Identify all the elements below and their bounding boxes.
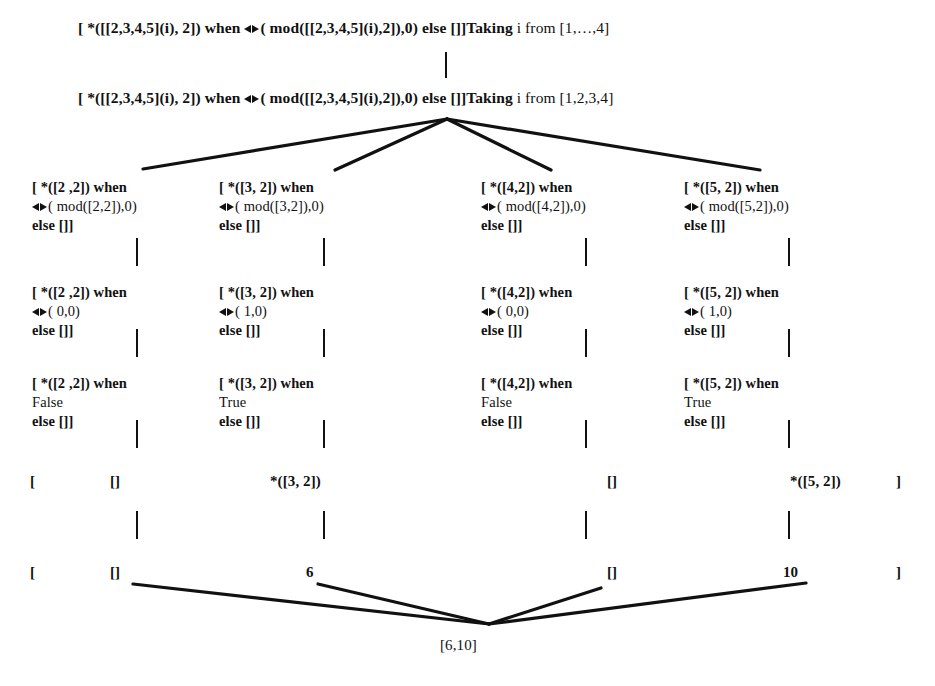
- connector-col1-cmp-to-bool: [136, 329, 138, 357]
- select-item-3: []: [607, 472, 617, 492]
- node-mod-col2: [ *([3, 2]) when( mod([3,2]),0)else []]: [219, 178, 324, 235]
- root-top-pre: [ *([[2,3,4,5](i), 2]) when: [78, 19, 244, 36]
- mod-col1-line1: [ *([2 ,2]) when: [32, 179, 127, 195]
- connector-col2-mod-to-cmp: [323, 238, 325, 266]
- value-item-1: []: [110, 563, 120, 583]
- cmp-col2-line2: ( 1,0): [235, 303, 267, 319]
- node-mod-col4: [ *([5, 2]) when( mod([5,2]),0)else []]: [684, 178, 789, 235]
- edge-root-to-branch-1: [143, 119, 447, 169]
- edge-root-to-branch-4: [447, 119, 760, 170]
- edge-root-to-branch-3: [447, 119, 551, 170]
- connector-col3-select-to-value: [585, 511, 587, 539]
- connector-col3-bool-to-select: [585, 420, 587, 448]
- bool-col1-line2: False: [32, 394, 63, 410]
- mod-col3-line2: ( mod([4,2]),0): [497, 198, 586, 214]
- root-expanded-post: ( mod([[2,3,4,5](i),2]),0) else []]: [260, 89, 466, 106]
- connector-col4-mod-to-cmp: [788, 238, 790, 266]
- not-equal-diamond-icon: [481, 308, 496, 317]
- bool-col2-line1: [ *([3, 2]) when: [219, 375, 314, 391]
- root-top-tail: i from [1,…,4]: [513, 19, 610, 36]
- connector-col2-select-to-value: [323, 511, 325, 539]
- cmp-col3-line3: else []]: [481, 322, 522, 338]
- mod-col2-line3: else []]: [219, 217, 260, 233]
- cmp-col3-line2: ( 0,0): [497, 303, 529, 319]
- cmp-col4-line2: ( 1,0): [700, 303, 732, 319]
- mod-col1-line3: else []]: [32, 217, 73, 233]
- root-expanded-tail-bold: Taking: [466, 89, 513, 106]
- node-cmp-col2: [ *([3, 2]) when( 1,0)else []]: [219, 283, 314, 340]
- bool-col3-line2: False: [481, 394, 512, 410]
- connector-col4-select-to-value: [788, 511, 790, 539]
- bool-col2-line3: else []]: [219, 413, 260, 429]
- bool-col3-line3: else []]: [481, 413, 522, 429]
- cmp-col2-line1: [ *([3, 2]) when: [219, 284, 314, 300]
- bool-col4-line1: [ *([5, 2]) when: [684, 375, 779, 391]
- node-root-top: [ *([[2,3,4,5](i), 2]) when ( mod([[2,3,…: [78, 18, 609, 38]
- node-bool-col3: [ *([4,2]) whenFalseelse []]: [481, 374, 572, 431]
- not-equal-diamond-icon: [219, 308, 234, 317]
- bool-col4-line2: True: [684, 394, 711, 410]
- mod-col4-line2: ( mod([5,2]),0): [700, 198, 789, 214]
- connector-col3-mod-to-cmp: [585, 238, 587, 266]
- select-close-bracket: ]: [896, 472, 901, 492]
- bool-col3-line1: [ *([4,2]) when: [481, 375, 572, 391]
- root-top-tail-bold: Taking: [466, 19, 513, 36]
- connector-col3-cmp-to-bool: [585, 329, 587, 357]
- not-equal-diamond-icon: [684, 308, 699, 317]
- node-bool-col4: [ *([5, 2]) whenTrueelse []]: [684, 374, 779, 431]
- not-equal-diamond-icon: [244, 95, 259, 104]
- cmp-col2-line3: else []]: [219, 322, 260, 338]
- cmp-col4-line3: else []]: [684, 322, 725, 338]
- cmp-col1-line2: ( 0,0): [48, 303, 80, 319]
- edge-root-top-to-root-expanded: [445, 52, 447, 78]
- value-item-2: 6: [306, 563, 314, 583]
- not-equal-diamond-icon: [219, 203, 234, 212]
- edge-value-3-to-result: [489, 588, 601, 624]
- node-cmp-col1: [ *([2 ,2]) when( 0,0)else []]: [32, 283, 127, 340]
- not-equal-diamond-icon: [684, 203, 699, 212]
- connector-col4-cmp-to-bool: [788, 329, 790, 357]
- node-mod-col3: [ *([4,2]) when( mod([4,2]),0)else []]: [481, 178, 586, 235]
- select-item-1: []: [110, 472, 120, 492]
- cmp-col3-line1: [ *([4,2]) when: [481, 284, 572, 300]
- mod-col2-line2: ( mod([3,2]),0): [235, 198, 324, 214]
- not-equal-diamond-icon: [32, 308, 47, 317]
- connector-col1-bool-to-select: [136, 420, 138, 448]
- mod-col3-line3: else []]: [481, 217, 522, 233]
- bool-col1-line3: else []]: [32, 413, 73, 429]
- node-result: [6,10]: [440, 636, 477, 656]
- root-expanded-pre: [ *([[2,3,4,5](i), 2]) when: [78, 89, 244, 106]
- value-open-bracket: [: [30, 563, 35, 583]
- edge-value-4-to-result: [489, 583, 806, 624]
- cmp-col1-line1: [ *([2 ,2]) when: [32, 284, 127, 300]
- bool-col4-line3: else []]: [684, 413, 725, 429]
- edge-value-2-to-result: [318, 584, 489, 624]
- root-top-post: ( mod([[2,3,4,5](i),2]),0) else []]: [260, 19, 466, 36]
- connector-col2-cmp-to-bool: [323, 329, 325, 357]
- mod-col1-line2: ( mod([2,2]),0): [48, 198, 137, 214]
- cmp-col1-line3: else []]: [32, 322, 73, 338]
- connector-col4-bool-to-select: [788, 420, 790, 448]
- connector-col1-mod-to-cmp: [136, 238, 138, 266]
- value-item-3: []: [607, 563, 617, 583]
- node-mod-col1: [ *([2 ,2]) when( mod([2,2]),0)else []]: [32, 178, 137, 235]
- select-item-4: *([5, 2]): [790, 472, 841, 492]
- not-equal-diamond-icon: [244, 25, 259, 34]
- root-expanded-tail: i from [1,2,3,4]: [513, 89, 614, 106]
- cmp-col4-line1: [ *([5, 2]) when: [684, 284, 779, 300]
- mod-col3-line1: [ *([4,2]) when: [481, 179, 572, 195]
- mod-col2-line1: [ *([3, 2]) when: [219, 179, 314, 195]
- node-bool-col2: [ *([3, 2]) whenTrueelse []]: [219, 374, 314, 431]
- edge-value-1-to-result: [133, 584, 489, 624]
- mod-col4-line1: [ *([5, 2]) when: [684, 179, 779, 195]
- select-open-bracket: [: [30, 472, 35, 492]
- bool-col1-line1: [ *([2 ,2]) when: [32, 375, 127, 391]
- node-root-expanded: [ *([[2,3,4,5](i), 2]) when ( mod([[2,3,…: [78, 88, 613, 108]
- node-cmp-col3: [ *([4,2]) when( 0,0)else []]: [481, 283, 572, 340]
- mod-col4-line3: else []]: [684, 217, 725, 233]
- connector-col1-select-to-value: [136, 511, 138, 539]
- value-item-4: 10: [783, 563, 798, 583]
- edge-root-to-branch-2: [335, 119, 447, 170]
- not-equal-diamond-icon: [32, 203, 47, 212]
- connector-col2-bool-to-select: [323, 420, 325, 448]
